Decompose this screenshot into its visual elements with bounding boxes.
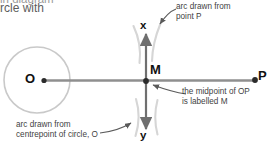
point-m-dot: [143, 78, 149, 84]
cutoff-text-line-2: rcle with: [0, 2, 44, 16]
point-o-dot: [41, 78, 46, 83]
arc-from-p-lower: [155, 100, 157, 135]
leader-arc-from-p: [160, 9, 176, 24]
label-point-p: P: [258, 68, 267, 83]
callout-arc-from-point-p: arc drawn from point P: [176, 2, 231, 21]
label-point-o: O: [25, 71, 35, 86]
label-axis-y: y: [140, 129, 146, 142]
arc-from-o-lower: [136, 99, 139, 136]
callout-arc-from-centrepoint-o: arc drawn from centrepoint of circle, O: [16, 120, 98, 139]
arc-from-p-upper: [152, 24, 161, 62]
callout-midpoint-of-op: the midpoint of OP is labelled M: [182, 87, 250, 106]
diagram-canvas: in diagram rcle with arc drawn from poin…: [0, 0, 268, 151]
leader-arc-from-o: [100, 123, 131, 133]
label-point-m: M: [150, 62, 161, 77]
label-axis-x: x: [140, 19, 146, 32]
